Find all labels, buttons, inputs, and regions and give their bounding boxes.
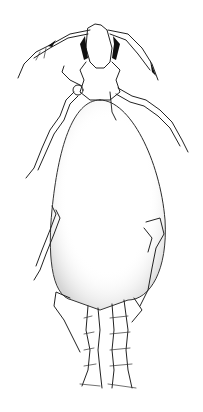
hind-right-leg xyxy=(108,298,142,388)
arthropod-illustration xyxy=(0,0,203,412)
body xyxy=(50,100,165,310)
left-palp xyxy=(18,30,90,78)
